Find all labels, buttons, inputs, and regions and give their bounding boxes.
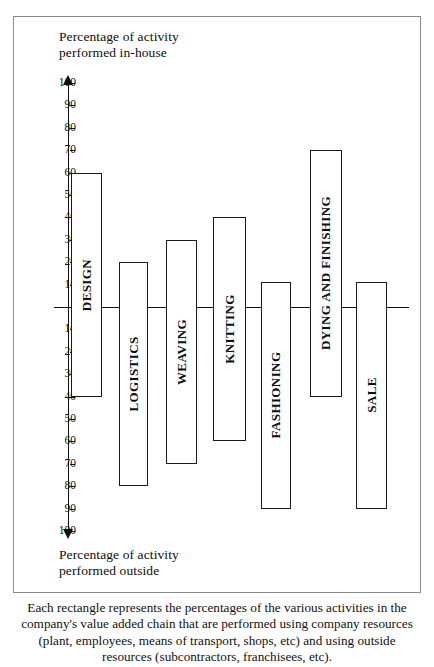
axis-tick-mark [70, 486, 75, 487]
figure-caption: Each rectangle represents the percentage… [13, 600, 421, 666]
axis-tick-mark [70, 509, 75, 510]
bar-knitting: KNITTING [213, 217, 246, 441]
bar-label: KNITTING [222, 295, 238, 365]
axis-tick-mark [70, 441, 75, 442]
bar-label: LOGISTICS [126, 337, 142, 412]
bar-label: SALE [364, 378, 380, 414]
chart-plot-area: Percentage of activity performed in-hous… [14, 17, 422, 594]
figure-frame: Percentage of activity performed in-hous… [13, 16, 421, 593]
bar-weaving: WEAVING [166, 240, 197, 464]
bar-label: WEAVING [174, 319, 190, 385]
bar-design: DESIGN [71, 173, 102, 397]
axis-tick-mark [70, 531, 75, 532]
bar-label: FASHIONING [268, 352, 284, 439]
bar-label: DYING AND FINISHING [318, 196, 334, 350]
bar-label: DESIGN [79, 258, 95, 310]
axis-tick-mark [70, 397, 75, 398]
bar-logistics: LOGISTICS [119, 262, 148, 486]
top-axis-title: Percentage of activity performed in-hous… [59, 29, 179, 61]
axis-tick-mark [70, 150, 75, 151]
axis-tick-mark [70, 105, 75, 106]
bar-sale: SALE [356, 282, 387, 508]
axis-tick-mark [70, 83, 75, 84]
bar-fashioning: FASHIONING [261, 282, 291, 508]
axis-tick-mark [70, 464, 75, 465]
axis-tick-mark [70, 128, 75, 129]
bar-dying-and-finishing: DYING AND FINISHING [310, 150, 342, 396]
bottom-axis-title: Percentage of activity performed outside [59, 547, 179, 579]
axis-tick-mark [70, 419, 75, 420]
